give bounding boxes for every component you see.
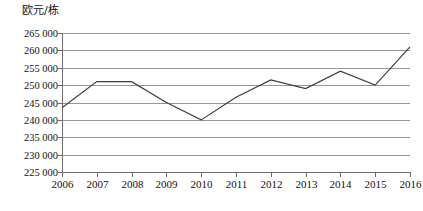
x-tick-label: 2013: [296, 178, 319, 190]
x-tick-label: 2008: [122, 178, 145, 190]
y-tick-label: 260 000: [24, 45, 58, 56]
x-tick-label: 2016: [400, 178, 423, 190]
y-axis-tick-labels: 225 000230 000235 000240 000245 000250 0…: [24, 28, 58, 178]
y-tick-label: 225 000: [24, 167, 58, 178]
y-tick-label: 265 000: [24, 28, 58, 39]
x-tick-label: 2015: [365, 178, 388, 190]
x-tick-label: 2009: [156, 178, 179, 190]
y-tick-label: 250 000: [24, 80, 58, 91]
y-tick-label: 245 000: [24, 98, 58, 109]
y-tick-label: 240 000: [24, 115, 58, 126]
gridlines: [62, 34, 410, 173]
y-tick-label: 235 000: [24, 132, 58, 143]
line-chart: 欧元/栋 225 000230 000235 000240 000245 000…: [0, 0, 423, 211]
x-tick-label: 2010: [191, 178, 214, 190]
data-series: [62, 47, 410, 120]
x-tick-label: 2006: [52, 178, 75, 190]
x-tick-label: 2014: [330, 178, 353, 190]
axis-lines: [62, 33, 411, 173]
x-axis-tick-labels: 2006200720082009201020112012201320142015…: [52, 178, 423, 190]
y-tick-label: 230 000: [24, 150, 58, 161]
y-axis-tick-marks: [58, 34, 62, 173]
chart-plot-area: 225 000230 000235 000240 000245 000250 0…: [0, 0, 423, 211]
x-tick-label: 2012: [261, 178, 283, 190]
x-tick-label: 2007: [87, 178, 110, 190]
x-tick-label: 2011: [226, 178, 248, 190]
y-tick-label: 255 000: [24, 63, 58, 74]
series-line: [62, 47, 410, 120]
